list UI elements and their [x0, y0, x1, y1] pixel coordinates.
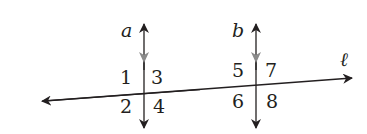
angle-8: 8 — [266, 90, 278, 112]
angle-3: 3 — [151, 66, 163, 88]
label-transversal: ℓ — [340, 48, 348, 70]
angle-7: 7 — [265, 59, 277, 81]
label-line-b: b — [232, 19, 244, 41]
angle-6: 6 — [232, 90, 244, 112]
angle-4: 4 — [153, 95, 165, 117]
angle-2: 2 — [120, 95, 132, 117]
angle-5: 5 — [232, 59, 244, 81]
angle-1: 1 — [120, 66, 132, 88]
label-line-a: a — [121, 19, 132, 41]
parallel-lines-diagram: a b ℓ 1 3 2 4 5 7 6 8 — [0, 0, 367, 134]
